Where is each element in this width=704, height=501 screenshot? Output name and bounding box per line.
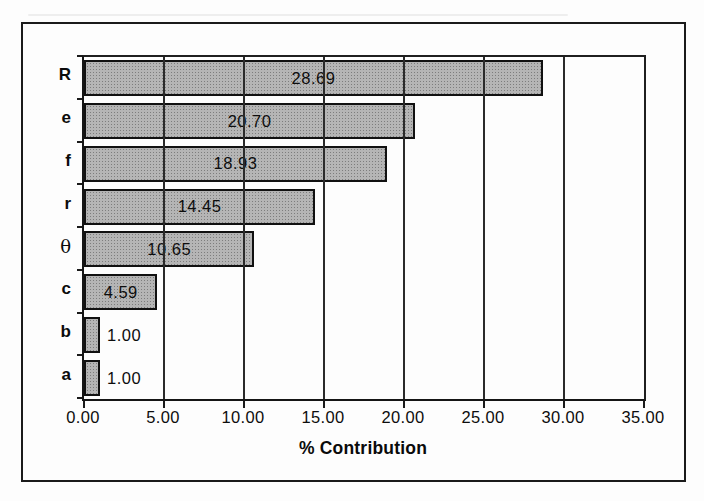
- category-label: R: [23, 65, 71, 85]
- bar: 10.65: [84, 231, 254, 267]
- bar-value-label: 4.59: [104, 283, 138, 302]
- bar-value-label: 10.65: [147, 240, 191, 259]
- bar: 18.93: [84, 146, 387, 182]
- category-label: f: [23, 151, 71, 171]
- x-tick-label: 35.00: [622, 408, 665, 427]
- x-tick-label: 10.00: [222, 408, 265, 427]
- category-label: a: [23, 365, 71, 385]
- x-tick-label: 15.00: [302, 408, 345, 427]
- gridline: [243, 57, 245, 399]
- x-tick-label: 0.00: [66, 408, 99, 427]
- x-axis-tick: [163, 401, 165, 408]
- scan-artifact-smudge: [28, 14, 568, 16]
- x-axis-tick: [83, 401, 85, 408]
- bar: 14.45: [84, 189, 315, 225]
- gridline: [483, 57, 485, 399]
- bar-value-label: 18.93: [214, 154, 258, 173]
- bar: [84, 317, 100, 353]
- bar: [84, 360, 100, 396]
- x-axis-tick: [563, 401, 565, 408]
- gridline: [163, 57, 165, 399]
- x-tick-label: 20.00: [382, 408, 425, 427]
- category-label: θ: [23, 236, 71, 257]
- plot-area: 28.6920.7018.9314.4510.654.591.001.00: [82, 55, 646, 401]
- x-tick-label: 25.00: [462, 408, 505, 427]
- bar: 20.70: [84, 103, 415, 139]
- category-label: c: [23, 279, 71, 299]
- x-tick-label: 30.00: [542, 408, 585, 427]
- chart-frame: Refrθcba 28.6920.7018.9314.4510.654.591.…: [21, 22, 686, 482]
- category-label: r: [23, 194, 71, 214]
- x-tick-label: 5.00: [146, 408, 179, 427]
- bar-value-label: 20.70: [228, 112, 272, 131]
- bar-value-label: 28.69: [292, 69, 336, 88]
- scanned-page: Refrθcba 28.6920.7018.9314.4510.654.591.…: [0, 0, 704, 501]
- bar-value-label: 1.00: [107, 325, 141, 344]
- x-axis-tick: [643, 401, 645, 408]
- x-axis-tick: [483, 401, 485, 408]
- bar-value-label: 14.45: [178, 197, 222, 216]
- x-axis-tick: [243, 401, 245, 408]
- gridline: [563, 57, 565, 399]
- gridline: [403, 57, 405, 399]
- gridline: [323, 57, 325, 399]
- bar: 28.69: [84, 60, 543, 96]
- x-axis-tick: [323, 401, 325, 408]
- x-axis-tick: [403, 401, 405, 408]
- category-label: e: [23, 108, 71, 128]
- category-label: b: [23, 322, 71, 342]
- bar: 4.59: [84, 274, 157, 310]
- bar-value-label: 1.00: [107, 368, 141, 387]
- x-axis-title: % Contribution: [299, 438, 427, 459]
